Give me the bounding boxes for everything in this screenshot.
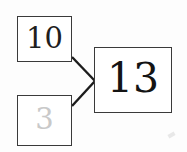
node-diagram-canvas: 10 3 13 (0, 0, 187, 152)
edge-input-a-to-output (72, 57, 95, 81)
input-node-3[interactable]: 3 (17, 95, 72, 146)
input-node-10-value: 10 (26, 24, 63, 55)
output-node-13[interactable]: 13 (94, 47, 172, 113)
input-node-10[interactable]: 10 (17, 16, 72, 62)
input-node-3-value: 3 (35, 105, 53, 136)
output-node-13-value: 13 (107, 58, 159, 102)
edge-input-b-to-output (72, 81, 95, 106)
